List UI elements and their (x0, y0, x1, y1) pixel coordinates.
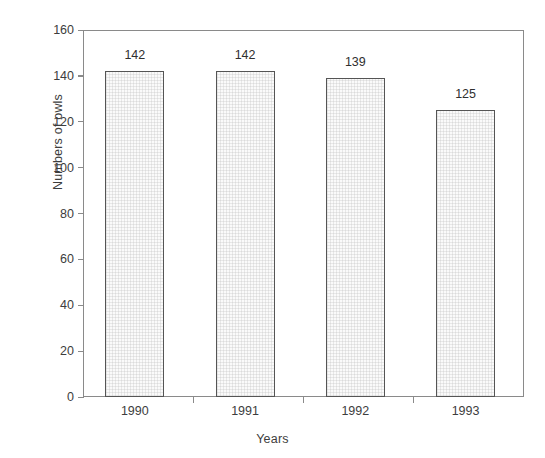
bar-value-label: 142 (200, 48, 290, 62)
x-tick-label: 1991 (200, 404, 290, 418)
y-tick-label: 100 (18, 160, 74, 176)
bar-value-label: 139 (310, 55, 400, 69)
bar (216, 71, 275, 397)
y-tick-label: 40 (18, 297, 74, 313)
x-tick-mark (303, 397, 304, 403)
x-axis-title: Years (0, 432, 545, 446)
bar (436, 110, 495, 397)
x-tick-mark (193, 397, 194, 403)
bar-value-label: 125 (421, 87, 511, 101)
x-tick-label: 1992 (310, 404, 400, 418)
bar (105, 71, 164, 397)
y-tick-label: 120 (18, 114, 74, 130)
x-tick-label: 1993 (421, 404, 511, 418)
y-tick-label: 80 (18, 206, 74, 222)
bar (326, 78, 385, 397)
y-tick-label: 60 (18, 251, 74, 267)
y-tick-label: 140 (18, 68, 74, 84)
y-tick-label: 0 (18, 389, 74, 405)
y-tick-label: 160 (18, 22, 74, 38)
bar-value-label: 142 (90, 48, 180, 62)
bar-chart-figure: Numbers of owls 160140120100806040200 14… (0, 0, 545, 458)
x-tick-label: 1990 (90, 404, 180, 418)
x-tick-mark (413, 397, 414, 403)
y-tick-label: 20 (18, 343, 74, 359)
